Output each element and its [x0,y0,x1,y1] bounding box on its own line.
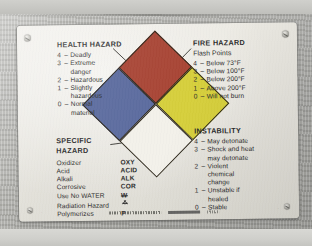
hazard-abbr: COR [121,183,136,191]
fineprint-text-smudge [109,211,161,214]
wall-lower-band [0,229,312,246]
mounting-screw-bottom-left [27,208,33,214]
list-item: 3–Shock and heat [194,145,254,154]
hazard-abbr: OXY [120,158,134,166]
wall-upper-band [0,0,312,14]
rating-text-continued: material [58,108,123,117]
list-item: 0–Will not burn [194,92,246,101]
fire-hazard-subheading: Flash Points [193,49,245,58]
radiation-trefoil-icon [121,199,129,207]
corner-mark-right: · [278,206,280,211]
hazard-abbr: ALK [121,175,135,183]
mounting-screw-bottom-right [284,203,290,209]
rating-text: Slightly [71,83,123,92]
rating-text: Unstable if [208,186,255,195]
instability-block: INSTABILITY 4–May detonate 3–Shock and h… [194,127,255,212]
wall-seam-bottom [0,227,312,229]
rating-text: Will not burn [207,92,246,101]
hazard-name: Use No WATER [57,191,121,200]
list-item: 1–Unstable if [195,186,255,195]
health-hazard-heading: HEALTH HAZARD [57,40,122,49]
fire-hazard-heading: FIRE HAZARD [193,39,245,48]
specific-hazard-block: SPECIFIC HAZARD OxidizerOXY AcidACID Alk… [56,136,138,218]
list-item: 3–Extreme [57,59,122,68]
instability-heading: INSTABILITY [194,127,254,136]
rating-text: Violent [207,162,254,171]
specific-hazard-heading-line2: HAZARD [56,147,137,156]
barcode-mark [168,210,200,213]
manufacturer-fineprint [109,210,219,214]
wall-seam-top [0,14,312,16]
mounting-screw-top-right [282,30,289,37]
health-hazard-block: HEALTH HAZARD 4–Deadly 3–Extreme danger … [57,40,123,117]
fire-hazard-block: FIRE HAZARD Flash Points 4–Below 73°F 3–… [193,39,246,101]
photo-scene: HEALTH HAZARD 4–Deadly 3–Extreme danger … [0,0,312,246]
fire-hazard-list: 4–Below 73°F 3–Below 100°F 2–Below 200°F… [193,59,245,101]
nfpa-placard: HEALTH HAZARD 4–Deadly 3–Extreme danger … [17,22,299,221]
rating-text: Extreme [70,59,122,68]
mounting-screw-top-left [24,35,31,42]
hazard-abbr: ACID [121,166,138,174]
specific-hazard-heading-line1: SPECIFIC [56,136,137,145]
instability-list: 4–May detonate 3–Shock and heat may deto… [194,137,255,212]
no-water-symbol-icon: W [121,191,127,199]
health-hazard-list: 4–Deadly 3–Extreme danger 2–Hazardous 1–… [57,51,123,117]
rating-text: Shock and heat [207,145,254,154]
list-item: Use No WATER W [57,191,138,200]
fineprint-code-smudge [207,211,219,214]
rating-text: Normal [71,100,123,109]
list-item: 0–Normal [58,100,123,109]
corner-mark-left: · [41,209,43,214]
specific-hazard-list: OxidizerOXY AcidACID AlkaliALK Corrosive… [56,158,137,218]
